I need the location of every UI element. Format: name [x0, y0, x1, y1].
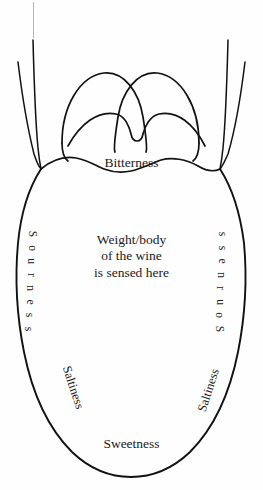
sourness-letter: S	[214, 325, 226, 331]
sourness-letter: s	[217, 232, 229, 236]
taste-zone-label-sourness-right: s s e n r u o S	[214, 228, 225, 336]
sourness-letter: r	[26, 273, 38, 277]
sourness-letter: o	[27, 245, 39, 251]
sourness-letter: u	[215, 299, 227, 305]
tongue-right-edge	[131, 169, 246, 477]
sourness-letter: e	[216, 258, 228, 263]
sourness-letter: o	[214, 312, 226, 318]
taste-zone-label-bitterness: Bitterness	[0, 155, 263, 171]
uvula-soft-palate-curve	[68, 113, 205, 146]
scan-artifact-line	[33, 2, 34, 38]
sourness-letter: e	[25, 299, 37, 304]
right-tonsil-arch	[115, 73, 199, 152]
sourness-letter: s	[24, 313, 36, 317]
right-pillar-line-outer	[220, 62, 245, 169]
sourness-letter: s	[24, 326, 36, 330]
left-pillar-line-outer	[18, 62, 41, 169]
taste-zone-label-sourness-left: S o u r n e s s	[30, 228, 36, 336]
sourness-letter: n	[216, 272, 228, 278]
sourness-letter: u	[26, 258, 38, 264]
tongue-taste-map-diagram: Bitterness Weight/body of the wine is se…	[0, 0, 263, 490]
left-pillar-line-inner	[33, 40, 41, 169]
right-pillar-line-inner	[220, 40, 228, 169]
sourness-letter: r	[215, 286, 227, 290]
sourness-letter: S	[27, 231, 39, 237]
sourness-letter: n	[25, 285, 37, 291]
taste-zone-label-sweetness: Sweetness	[0, 436, 263, 452]
sourness-letter: s	[217, 245, 229, 249]
